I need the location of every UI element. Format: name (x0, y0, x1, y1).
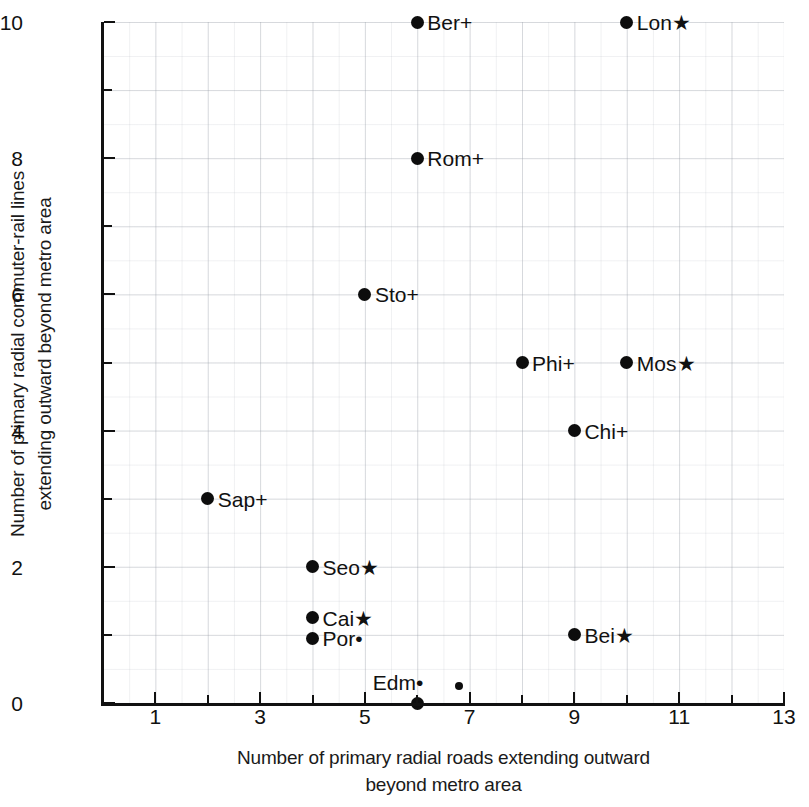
plot-area: Ber+Lon★Rom+Sto+Phi+Mos★Chi+Sap+Seo★Cai★… (103, 22, 784, 703)
data-point-label: Chi+ (584, 420, 628, 441)
y-axis-tick-minor (104, 225, 112, 227)
data-point-marker[interactable] (568, 424, 581, 437)
x-axis-tick-label: 11 (659, 706, 699, 727)
y-axis-tick-label: 4 (0, 421, 23, 442)
data-point-marker[interactable] (306, 611, 319, 624)
data-point-marker[interactable] (568, 628, 581, 641)
data-point-marker[interactable] (306, 632, 319, 645)
y-axis-spine (101, 22, 104, 706)
data-point-label: Edm• (373, 672, 424, 693)
x-axis-tick-major (154, 692, 156, 703)
data-point-label: Ber+ (427, 12, 472, 33)
x-axis-title-line-1: Number of primary radial roads extending… (103, 744, 784, 771)
data-point-marker[interactable] (201, 492, 214, 505)
data-point-marker[interactable] (516, 356, 529, 369)
y-axis-tick-label: 10 (0, 12, 23, 33)
data-point-marker[interactable] (455, 682, 463, 690)
data-point-label: Phi+ (532, 352, 575, 373)
y-axis-tick-minor (104, 634, 112, 636)
x-axis-tick-label: 7 (450, 706, 490, 727)
x-axis-tick-label: 5 (345, 706, 385, 727)
x-axis-tick-label: 3 (240, 706, 280, 727)
x-axis-tick-minor (626, 695, 628, 703)
y-axis-tick-minor (104, 498, 112, 500)
x-axis-tick-label: 9 (554, 706, 594, 727)
y-axis-tick-major (104, 702, 115, 704)
x-axis-title: Number of primary radial roads extending… (103, 744, 784, 798)
data-point-marker[interactable] (620, 16, 633, 29)
data-point-label: Lon★ (637, 12, 691, 33)
data-point-label: Mos★ (637, 352, 696, 373)
y-axis-tick-minor (104, 89, 112, 91)
y-axis-title-line-2: extending outward beyond metro area (31, 170, 58, 536)
data-point-label: Seo★ (323, 556, 379, 577)
x-axis-tick-minor (521, 695, 523, 703)
y-axis-title: Number of primary radial commuter-rail l… (0, 0, 62, 707)
y-axis-tick-minor (104, 362, 112, 364)
x-axis-tick-minor (731, 695, 733, 703)
data-point-label: Sto+ (375, 284, 419, 305)
data-point-marker[interactable] (620, 356, 633, 369)
x-axis-tick-major (364, 692, 366, 703)
data-point-label: Por• (323, 628, 363, 649)
y-axis-tick-major (104, 430, 115, 432)
y-axis-tick-major (104, 566, 115, 568)
x-axis-tick-minor (207, 695, 209, 703)
data-point-label: Rom+ (427, 148, 484, 169)
x-axis-tick-minor (312, 695, 314, 703)
y-axis-title-line-1: Number of primary radial commuter-rail l… (4, 170, 31, 536)
y-axis-tick-major (104, 21, 115, 23)
y-axis-tick-label: 0 (0, 693, 23, 714)
y-axis-tick-label: 6 (0, 284, 23, 305)
data-point-label: Bei★ (584, 624, 633, 645)
data-point-marker[interactable] (358, 288, 371, 301)
data-point-marker[interactable] (411, 16, 424, 29)
y-axis-tick-label: 2 (0, 557, 23, 578)
y-axis-tick-major (104, 293, 115, 295)
x-axis-tick-major (469, 692, 471, 703)
x-axis-tick-label: 1 (135, 706, 175, 727)
data-point-marker[interactable] (411, 152, 424, 165)
x-axis-tick-major (678, 692, 680, 703)
y-axis-tick-label: 8 (0, 148, 23, 169)
data-point-label: Cai★ (323, 607, 374, 628)
data-point-marker[interactable] (306, 560, 319, 573)
x-axis-tick-label: 13 (764, 706, 804, 727)
data-point-label: Sap+ (218, 488, 268, 509)
x-axis-tick-major (783, 692, 785, 703)
x-axis-title-line-2: beyond metro area (103, 771, 784, 798)
x-axis-tick-minor (416, 695, 418, 703)
x-axis-tick-major (573, 692, 575, 703)
scatter-plot-figure: Number of primary radial commuter-rail l… (0, 0, 809, 807)
y-axis-tick-major (104, 157, 115, 159)
x-axis-tick-major (259, 692, 261, 703)
